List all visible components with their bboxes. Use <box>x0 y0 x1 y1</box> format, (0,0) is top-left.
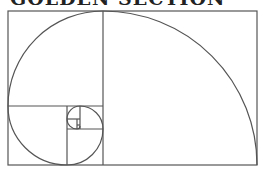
golden-spiral-curve <box>8 11 257 165</box>
golden-spiral-diagram <box>0 0 263 175</box>
outer-golden-rectangle <box>8 11 257 165</box>
